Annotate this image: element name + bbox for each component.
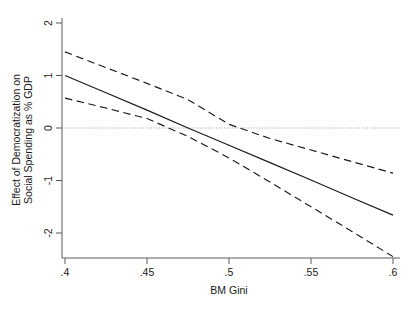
figure-container: 2 1 0 -1 -2 .4 .45 .5 .55 .6 BM Gini Eff… (0, 0, 413, 309)
y-axis-title-line1: Effect of Democratization on (10, 74, 22, 206)
x-axis-title: BM Gini (210, 284, 247, 296)
x-tick-label-0-6: .6 (389, 266, 398, 278)
y-tick-label-neg2: -2 (42, 228, 54, 237)
marginal-effect-plot: 2 1 0 -1 -2 .4 .45 .5 .55 .6 BM Gini Eff… (0, 0, 413, 309)
y-tick-label-1: 1 (42, 72, 54, 78)
y-axis-title: Effect of Democratization on Social Spen… (10, 74, 34, 206)
y-tick-label-0: 0 (42, 125, 54, 131)
marginal-effect-line (65, 76, 393, 216)
data-series-group (65, 52, 393, 257)
y-axis-title-line2: Social Spending as % GDP (22, 76, 34, 204)
lower-confidence-bound-line (65, 98, 393, 257)
upper-confidence-bound-line (65, 52, 393, 173)
x-tick-label-0-45: .45 (140, 266, 155, 278)
x-tick-label-0-4: .4 (61, 266, 70, 278)
y-tick-label-2: 2 (42, 20, 54, 26)
x-tick-label-0-55: .55 (304, 266, 319, 278)
x-tick-marks (65, 258, 393, 264)
x-tick-label-0-5: .5 (225, 266, 234, 278)
y-tick-label-neg1: -1 (42, 176, 54, 185)
y-tick-marks (56, 23, 62, 233)
